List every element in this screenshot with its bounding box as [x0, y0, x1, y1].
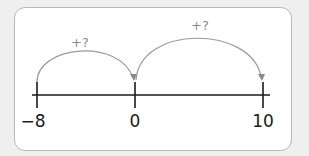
jump-arc-2 [136, 38, 261, 80]
tick-label-neg8: −8 [20, 111, 45, 131]
jump-label-2: +? [191, 18, 209, 33]
number-line-diagram: +? +? −8 0 10 [0, 0, 309, 156]
jump-label-1: +? [71, 35, 89, 50]
jump-arrowhead-2-icon [258, 74, 265, 81]
jump-arc-1 [37, 51, 133, 82]
tick-label-10: 10 [252, 111, 274, 131]
tick-label-0: 0 [130, 111, 141, 131]
